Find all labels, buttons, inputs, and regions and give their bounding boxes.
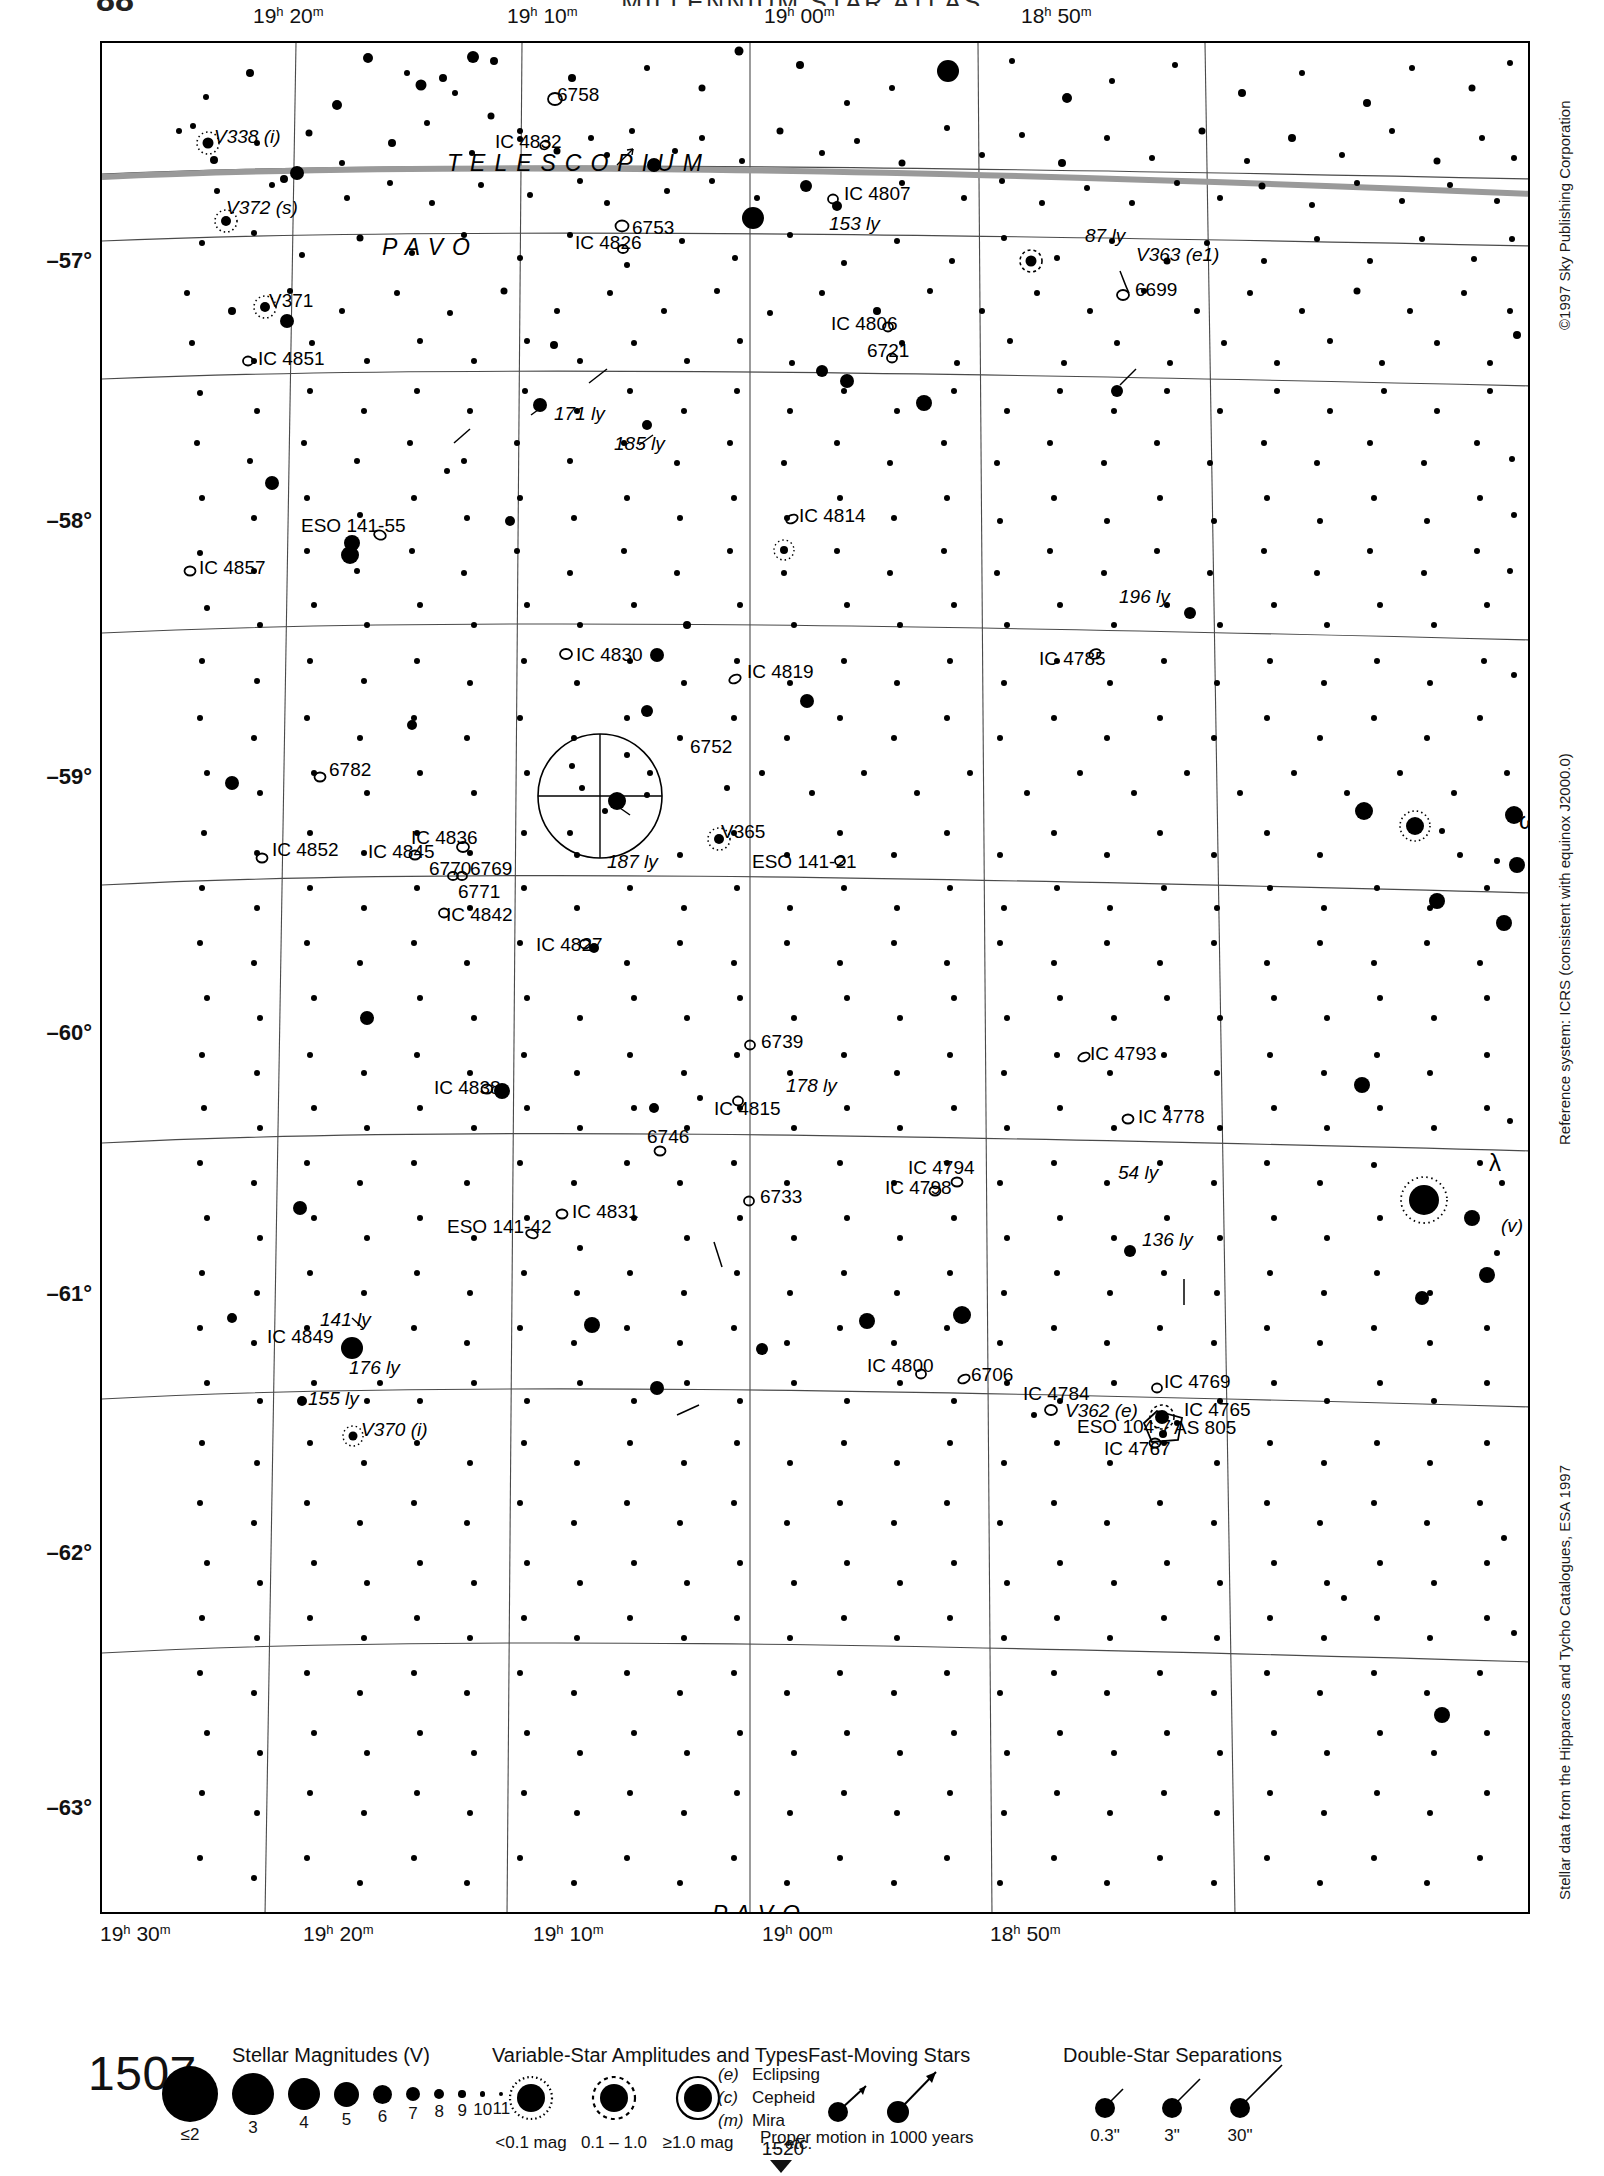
ra-label-bottom-3: 19h 00m <box>762 1922 833 1946</box>
object-label: 178 ly <box>786 1075 838 1096</box>
magnitude-label: 3 <box>233 2118 273 2138</box>
object-label: ESO 104-7 <box>1077 1416 1171 1437</box>
object-label: 6758 <box>557 84 599 105</box>
object-label: 6752 <box>690 736 732 757</box>
variable-amplitude-label: <0.1 mag <box>483 2133 579 2153</box>
object-label: IC 4852 <box>272 839 339 860</box>
object-label: 6721 <box>867 340 909 361</box>
object-label: IC 4793 <box>1090 1043 1157 1064</box>
ra-label-top-3: 18h 50m <box>1021 4 1092 28</box>
ra-label-top-1: 19h 10m <box>507 4 578 28</box>
dec-label-60: –60° <box>10 1020 92 1046</box>
proper-motion-arrows-legend <box>810 2064 970 2134</box>
object-label: 155 ly <box>308 1388 360 1409</box>
object-label: 176 ly <box>349 1357 401 1378</box>
double-star-marker <box>1085 2060 1155 2126</box>
object-label: λ <box>1489 1149 1501 1176</box>
object-label: (v) <box>1501 1215 1523 1236</box>
magnitude-dot <box>232 2073 274 2115</box>
stellar-magnitudes-title: Stellar Magnitudes (V) <box>232 2044 430 2067</box>
object-label: IC 4819 <box>747 661 814 682</box>
object-label: 6699 <box>1135 279 1177 300</box>
magnitude-dot <box>480 2091 485 2096</box>
dec-label-58: –58° <box>10 508 92 534</box>
magnitude-dot <box>373 2085 392 2104</box>
object-label: IC 4769 <box>1164 1371 1231 1392</box>
object-label: V372 (s) <box>226 197 298 218</box>
next-chart-number[interactable]: 1520 <box>748 2138 818 2160</box>
variable-type-label: Cepheid <box>752 2088 815 2107</box>
variable-star-marker <box>582 2066 646 2130</box>
magnitude-dot <box>458 2090 466 2098</box>
object-label: IC 4831 <box>572 1201 639 1222</box>
object-label: 6771 <box>458 881 500 902</box>
ra-label-bottom-4: 18h 50m <box>990 1922 1061 1946</box>
double-star-separation-label: 30" <box>1200 2126 1280 2146</box>
svg-text:PAVO: PAVO <box>382 234 479 260</box>
variable-type-row: (c)Cepheid <box>718 2088 815 2108</box>
dec-label-63: –63° <box>10 1795 92 1821</box>
object-label: IC 4838 <box>434 1077 501 1098</box>
magnitude-dot <box>334 2082 359 2107</box>
object-label: IC 4826 <box>575 232 642 253</box>
object-label: V365 <box>721 821 765 842</box>
dec-label-61: –61° <box>10 1281 92 1307</box>
object-label: IC 4842 <box>446 904 513 925</box>
object-label: 196 ly <box>1119 586 1171 607</box>
object-label: IC 4798 <box>885 1177 952 1198</box>
chevron-down-icon[interactable] <box>770 2160 792 2173</box>
variable-type-code: (m) <box>718 2111 752 2131</box>
object-label: IC 4794 <box>908 1157 975 1178</box>
dec-label-59: –59° <box>10 764 92 790</box>
svg-text:PAVO: PAVO <box>712 1901 809 1914</box>
variable-star-marker <box>499 2066 563 2130</box>
object-label: 136 ly <box>1142 1229 1194 1250</box>
object-label: IC 4814 <box>799 505 866 526</box>
double-star-marker <box>1220 2060 1290 2126</box>
object-label: ESO 141-55 <box>301 515 406 536</box>
object-label: IC 4845 <box>368 841 435 862</box>
magnitude-dot <box>288 2078 320 2110</box>
object-label: IC 4800 <box>867 1355 934 1376</box>
object-label: 153 ly <box>829 213 881 234</box>
dec-label-57: –57° <box>10 248 92 274</box>
ra-label-bottom-2: 19h 10m <box>533 1922 604 1946</box>
object-label: 6769 <box>470 858 512 879</box>
coordinate-grid <box>102 43 1530 1914</box>
ra-label-top-2: 19h 00m <box>764 4 835 28</box>
double-star-marker <box>1152 2060 1222 2126</box>
svg-text:TELESCOPIUM: TELESCOPIUM <box>447 150 711 176</box>
ra-label-bottom-0: 19h 30m <box>100 1922 171 1946</box>
magnitude-label: 4 <box>284 2113 324 2133</box>
magnitude-dot <box>434 2089 444 2099</box>
object-label: 6782 <box>329 759 371 780</box>
variable-stars-title: Variable-Star Amplitudes and Types <box>492 2044 808 2067</box>
variable-type-code: (c) <box>718 2088 752 2108</box>
object-label: 6733 <box>760 1186 802 1207</box>
object-label: IC 4806 <box>831 313 898 334</box>
object-label: IC 4767 <box>1104 1438 1171 1459</box>
object-label: 185 ly <box>614 433 666 454</box>
star-chart-page: MILLENNIUM STAR ATLAS 88 19h 20m 19h 10m… <box>0 0 1604 2176</box>
object-label: V363 (e1) <box>1136 244 1219 265</box>
object-label: IC 4807 <box>844 183 911 204</box>
star-map[interactable]: TELESCOPIUM PAVO PAVO V338 (i)6758IC 483… <box>100 41 1530 1914</box>
object-label: ESO 141-21 <box>752 851 857 872</box>
object-label: 6770 <box>429 858 471 879</box>
object-label: 171 ly <box>554 403 606 424</box>
copyright-text: ©1997 Sky Publishing Corporation <box>1556 100 1573 330</box>
magnitude-label: ≤2 <box>170 2125 210 2145</box>
variable-type-row: (e)Eclipsing <box>718 2065 820 2085</box>
ra-label-top-0: 19h 20m <box>253 4 324 28</box>
object-label: IC 4851 <box>258 348 325 369</box>
ra-label-bottom-1: 19h 20m <box>303 1922 374 1946</box>
object-label: 6746 <box>647 1126 689 1147</box>
object-label: 54 ly <box>1118 1162 1160 1183</box>
magnitude-label: 5 <box>327 2110 367 2130</box>
dec-label-62: –62° <box>10 1540 92 1566</box>
object-label: AS 805 <box>1174 1417 1236 1438</box>
object-label: 6739 <box>761 1031 803 1052</box>
object-label: 187 ly <box>607 851 659 872</box>
object-label: V338 (i) <box>214 126 281 147</box>
object-label: IC 4827 <box>536 934 603 955</box>
